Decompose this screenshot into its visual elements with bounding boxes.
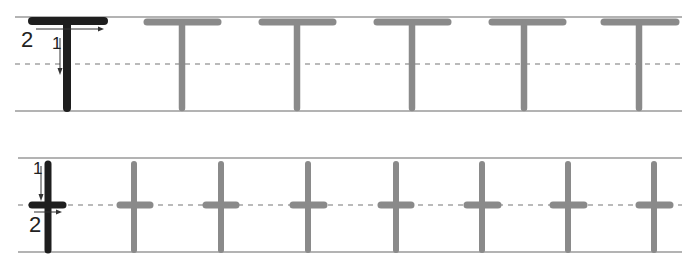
trace-T-5 bbox=[604, 22, 676, 108]
worksheet-canvas bbox=[0, 0, 695, 269]
row1-stroke-label-2: 2 bbox=[21, 29, 33, 51]
row1-stroke-label-1: 1 bbox=[52, 35, 61, 52]
trace-letters-t bbox=[120, 164, 670, 250]
trace-t-4 bbox=[381, 164, 411, 250]
trace-t-2 bbox=[206, 164, 236, 250]
trace-t-3 bbox=[293, 164, 324, 250]
row2-stroke-label-1: 1 bbox=[33, 160, 42, 177]
trace-t-6 bbox=[553, 164, 584, 250]
trace-t-5 bbox=[467, 164, 498, 250]
trace-t-7 bbox=[639, 164, 670, 250]
trace-letters-T bbox=[147, 22, 676, 108]
trace-T-1 bbox=[147, 22, 218, 108]
trace-T-4 bbox=[492, 22, 563, 108]
row2-stroke-label-2: 2 bbox=[29, 214, 41, 236]
trace-T-2 bbox=[262, 22, 333, 108]
trace-t-1 bbox=[120, 164, 150, 250]
model-letter-T bbox=[32, 21, 104, 108]
row1-guidelines bbox=[15, 17, 682, 111]
trace-T-3 bbox=[377, 22, 448, 108]
